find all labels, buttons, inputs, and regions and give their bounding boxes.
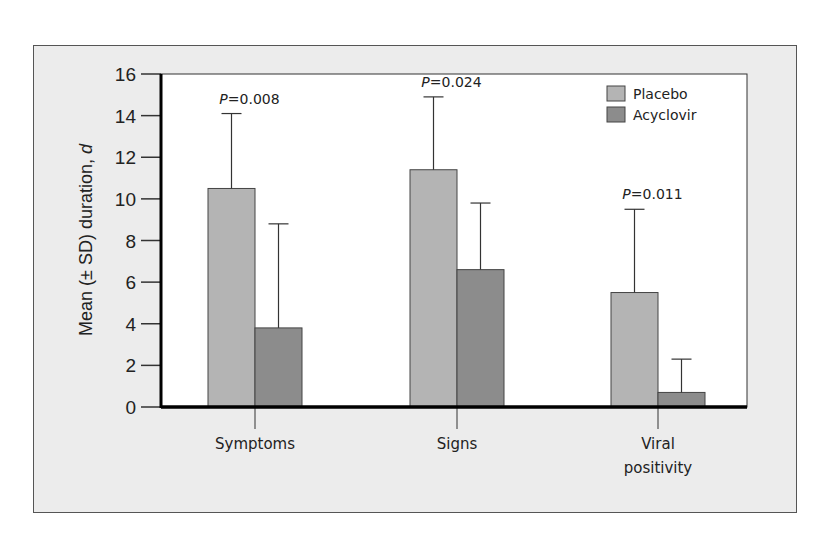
y-tick-label: 12: [115, 147, 136, 168]
y-axis-label: Mean (± SD) duration, d: [76, 143, 96, 336]
acyclovir-bar: [255, 328, 302, 407]
p-value-annotation: P=0.024: [421, 74, 481, 90]
p-value-annotation: P=0.011: [622, 186, 682, 202]
category-label: Signs: [437, 435, 478, 453]
y-tick-label: 14: [115, 106, 137, 127]
bar-chart: 0246810121416Mean (± SD) duration, dSymp…: [0, 0, 816, 538]
y-tick-label: 6: [125, 272, 136, 293]
y-tick-label: 8: [125, 231, 136, 252]
y-tick-label: 0: [125, 397, 136, 418]
placebo-bar: [611, 293, 658, 407]
legend-swatch-acyclovir: [607, 107, 625, 122]
y-tick-label: 2: [125, 355, 136, 376]
p-value-annotation: P=0.008: [219, 91, 279, 107]
acyclovir-bar: [658, 392, 705, 407]
category-label: Viral: [641, 435, 675, 453]
placebo-bar: [410, 170, 457, 407]
placebo-bar: [208, 188, 255, 407]
legend-label-placebo: Placebo: [633, 86, 688, 102]
y-tick-label: 4: [125, 314, 136, 335]
legend-swatch-placebo: [607, 86, 625, 101]
category-label: positivity: [624, 459, 693, 477]
acyclovir-bar: [457, 270, 504, 407]
category-label: Symptoms: [215, 435, 295, 453]
legend-label-acyclovir: Acyclovir: [633, 107, 697, 123]
y-tick-label: 16: [115, 64, 136, 85]
y-tick-label: 10: [115, 189, 136, 210]
